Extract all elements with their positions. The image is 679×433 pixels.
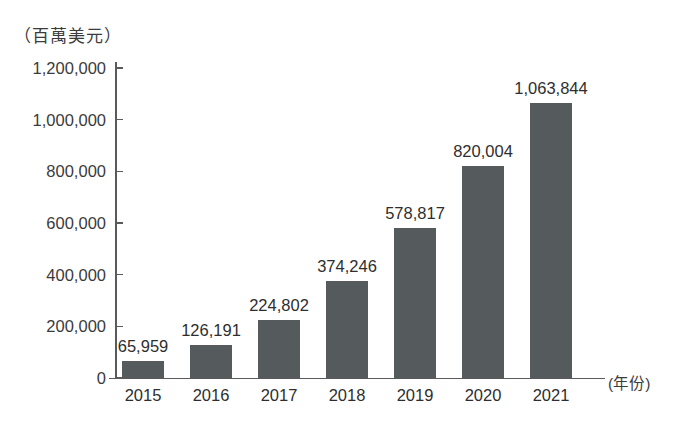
y-axis-tick-label: 1,200,000 [6, 59, 106, 78]
y-axis-tick [115, 377, 123, 379]
y-axis-tick [115, 326, 123, 328]
bar-chart: （百萬美元） 0200,000400,000600,000800,0001,00… [0, 0, 679, 433]
y-axis-tick-label: 200,000 [6, 317, 106, 336]
x-axis-tick-label: 2019 [397, 386, 434, 405]
x-axis-tick-label: 2016 [193, 386, 230, 405]
bar[interactable] [258, 320, 300, 378]
y-axis-tick [115, 222, 123, 224]
x-axis-tick-label: 2021 [533, 386, 570, 405]
bar[interactable] [462, 166, 504, 378]
y-axis-tick-label: 600,000 [6, 214, 106, 233]
bar-value-label: 1,063,844 [514, 79, 587, 98]
bar-value-label: 578,817 [385, 204, 445, 223]
bar-value-label: 65,959 [118, 337, 168, 356]
y-axis-tick-label: 1,000,000 [6, 110, 106, 129]
y-axis-tick [115, 274, 123, 276]
y-axis-tick-label: 0 [6, 369, 106, 388]
bar-value-label: 126,191 [181, 321, 241, 340]
bar[interactable] [326, 281, 368, 378]
x-axis-tick-label: 2017 [261, 386, 298, 405]
bar[interactable] [394, 228, 436, 378]
bar[interactable] [530, 103, 572, 378]
y-axis-tick [115, 119, 123, 121]
y-axis-tick-label: 800,000 [6, 162, 106, 181]
bar-value-label: 224,802 [249, 296, 309, 315]
bar[interactable] [190, 345, 232, 378]
y-axis-tick-label: 400,000 [6, 265, 106, 284]
y-axis-tick-labels: 0200,000400,000600,000800,0001,000,0001,… [0, 0, 106, 433]
x-axis-tick-label: 2020 [465, 386, 502, 405]
x-axis-unit-label: (年份) [608, 371, 650, 393]
x-axis-tick-label: 2015 [125, 386, 162, 405]
y-axis-tick [115, 171, 123, 173]
bar[interactable] [122, 361, 164, 378]
y-axis-tick [115, 67, 123, 69]
bar-value-label: 374,246 [317, 257, 377, 276]
bar-value-label: 820,004 [453, 142, 513, 161]
x-axis-tick-label: 2018 [329, 386, 366, 405]
